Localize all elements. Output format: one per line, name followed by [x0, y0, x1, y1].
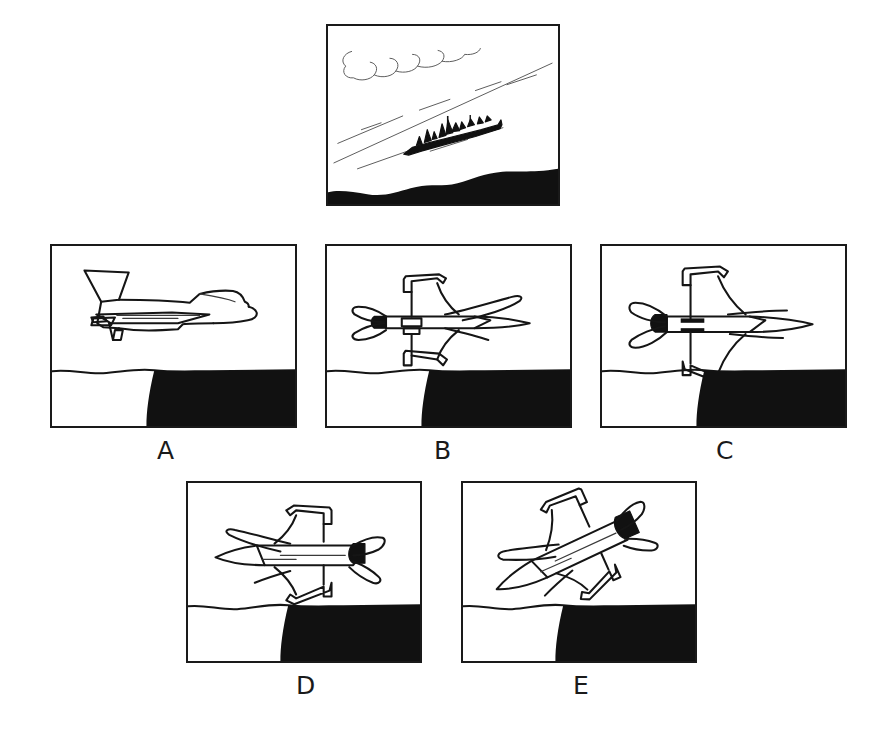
option-label-e: E [573, 673, 589, 698]
reference-panel[interactable] [326, 24, 560, 206]
option-panel-d[interactable] [186, 481, 422, 663]
option-d-drawing [188, 483, 420, 661]
option-label-d: D [296, 673, 316, 698]
option-panel-c[interactable] [600, 244, 847, 428]
land-mass [421, 370, 570, 426]
test-item-page: A B C D E [0, 0, 879, 754]
option-panel-b[interactable] [325, 244, 572, 428]
option-e-drawing [463, 483, 695, 661]
land-mass [696, 370, 845, 426]
option-b-drawing [327, 246, 570, 426]
land-mass [146, 370, 295, 426]
option-panel-a[interactable] [50, 244, 297, 428]
option-panel-e[interactable] [461, 481, 697, 663]
option-c-drawing [602, 246, 845, 426]
land-mass [280, 605, 420, 661]
option-label-c: C [716, 438, 734, 463]
option-label-a: A [157, 438, 175, 463]
option-label-b: B [434, 438, 452, 463]
option-a-drawing [52, 246, 295, 426]
reference-scene-drawing [328, 26, 558, 204]
land-mass [555, 605, 695, 661]
